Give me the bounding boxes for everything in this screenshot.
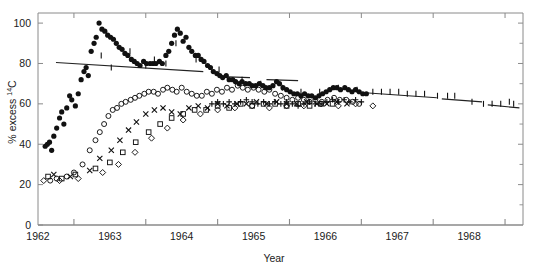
data-point-open-square bbox=[120, 150, 125, 155]
data-point-open-circle bbox=[194, 93, 199, 98]
data-point-open-circle bbox=[209, 91, 214, 96]
x-tick-label: 1966 bbox=[314, 230, 338, 242]
data-point-x bbox=[186, 105, 191, 110]
data-point-open-circle bbox=[123, 99, 128, 104]
data-point-filled-circle bbox=[79, 77, 84, 82]
data-point-filled-circle bbox=[169, 41, 174, 46]
data-point-open-circle bbox=[179, 85, 184, 90]
data-point-filled-circle bbox=[69, 97, 74, 102]
data-series bbox=[41, 20, 514, 183]
x-axis: 1962196319641965196619671968 bbox=[26, 13, 505, 242]
data-point-filled-circle bbox=[166, 49, 171, 54]
data-point-filled-circle bbox=[91, 41, 96, 46]
data-point-filled-circle bbox=[94, 35, 99, 40]
x-tick-label: 1963 bbox=[98, 230, 122, 242]
x-tick-label: 1965 bbox=[242, 230, 266, 242]
y-axis: 204060801000 bbox=[13, 17, 523, 231]
data-point-filled-circle bbox=[178, 31, 183, 36]
x-tick-label: 1962 bbox=[26, 230, 50, 242]
data-point-plus bbox=[359, 99, 365, 105]
y-tick-label: 20 bbox=[19, 178, 31, 190]
data-point-plus bbox=[232, 101, 238, 107]
data-point-filled-circle bbox=[76, 91, 81, 96]
data-point-open-circle bbox=[93, 138, 98, 143]
data-point-open-square bbox=[108, 160, 113, 165]
plot-frame bbox=[38, 13, 523, 225]
y-tick-label-zero: 0 bbox=[25, 219, 31, 231]
data-point-open-circle bbox=[224, 85, 229, 90]
data-point-open-diamond bbox=[115, 161, 121, 167]
data-point-filled-circle bbox=[54, 125, 59, 130]
data-point-open-square bbox=[169, 116, 174, 121]
open-square-series bbox=[46, 102, 335, 181]
data-point-filled-circle bbox=[61, 121, 66, 126]
data-point-x bbox=[51, 172, 56, 177]
data-point-open-circle bbox=[137, 93, 142, 98]
data-point-filled-circle bbox=[49, 148, 54, 153]
data-point-filled-circle bbox=[51, 134, 56, 139]
data-point-open-circle bbox=[273, 91, 278, 96]
data-point-filled-circle bbox=[160, 61, 165, 66]
data-point-open-circle bbox=[199, 93, 204, 98]
data-point-filled-circle bbox=[183, 35, 188, 40]
data-point-x bbox=[117, 138, 122, 143]
data-point-plus bbox=[226, 99, 232, 105]
data-point-open-diamond bbox=[149, 135, 155, 141]
trend-segment-5 bbox=[442, 99, 482, 102]
y-tick-label: 100 bbox=[13, 17, 31, 29]
data-point-plus bbox=[336, 99, 342, 105]
data-point-x bbox=[178, 111, 183, 116]
data-point-open-circle bbox=[240, 85, 245, 90]
trend-lines bbox=[56, 62, 519, 107]
data-point-x bbox=[87, 168, 92, 173]
y-tick-label: 60 bbox=[19, 97, 31, 109]
data-point-open-circle bbox=[184, 89, 189, 94]
scatter-plot: 204060801000 196219631964196519661967196… bbox=[0, 0, 548, 270]
data-point-filled-circle bbox=[172, 33, 177, 38]
data-point-open-circle bbox=[97, 130, 102, 135]
data-point-open-diamond bbox=[180, 117, 186, 123]
trend-segment-3 bbox=[266, 80, 298, 81]
data-point-open-circle bbox=[146, 89, 151, 94]
data-point-x bbox=[160, 105, 165, 110]
data-point-open-circle bbox=[174, 89, 179, 94]
data-point-open-circle bbox=[214, 87, 219, 92]
data-point-filled-circle bbox=[57, 115, 62, 120]
data-point-filled-circle bbox=[59, 109, 64, 114]
y-tick-label: 40 bbox=[19, 138, 31, 150]
data-point-plus bbox=[278, 101, 284, 107]
data-point-open-circle bbox=[230, 87, 235, 92]
data-point-filled-circle bbox=[64, 105, 69, 110]
data-point-filled-circle bbox=[189, 49, 194, 54]
data-point-open-circle bbox=[204, 89, 209, 94]
y-tick-label: 80 bbox=[19, 57, 31, 69]
data-point-x bbox=[143, 111, 148, 116]
data-point-open-diamond bbox=[132, 149, 138, 155]
data-point-open-circle bbox=[219, 89, 224, 94]
data-point-open-diamond bbox=[164, 125, 170, 131]
data-point-open-circle bbox=[189, 91, 194, 96]
data-point-filled-circle bbox=[86, 73, 91, 78]
data-point-plus bbox=[221, 101, 227, 107]
main-trend-line bbox=[56, 62, 203, 71]
data-point-open-square bbox=[146, 130, 151, 135]
trend-segment-4 bbox=[365, 93, 437, 98]
y-axis-title: % excess 14C bbox=[6, 80, 18, 144]
data-point-x bbox=[134, 119, 139, 124]
x-axis-title: Year bbox=[263, 252, 285, 264]
data-point-filled-circle bbox=[137, 63, 142, 68]
x-tick-label: 1968 bbox=[457, 230, 481, 242]
svg-text:% excess 14C: % excess 14C bbox=[6, 80, 18, 144]
data-point-open-circle bbox=[87, 148, 92, 153]
data-point-open-circle bbox=[115, 105, 120, 110]
x-tick-label: 1964 bbox=[170, 230, 194, 242]
data-point-open-diamond bbox=[100, 170, 106, 176]
data-point-filled-circle bbox=[73, 103, 78, 108]
y-axis-title-superscript: 14 bbox=[6, 88, 13, 96]
data-point-open-circle bbox=[155, 91, 160, 96]
figure-container: 204060801000 196219631964196519661967196… bbox=[0, 0, 548, 270]
data-point-filled-circle bbox=[47, 140, 52, 145]
data-point-x bbox=[97, 156, 102, 161]
data-point-plus bbox=[267, 101, 273, 107]
data-point-open-circle bbox=[262, 89, 267, 94]
